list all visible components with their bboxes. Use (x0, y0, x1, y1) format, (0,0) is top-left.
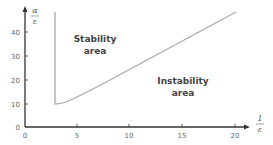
stability-area-label: Stability area (74, 34, 117, 56)
y-tick-40: 40 (11, 29, 20, 37)
x-tick-10: 10 (125, 132, 134, 140)
svg-text:ε: ε (258, 125, 262, 134)
x-tick-15: 15 (178, 132, 187, 140)
svg-text:1: 1 (257, 114, 262, 123)
instability-area-label: Instability area (157, 76, 208, 98)
y-tick-10: 10 (11, 101, 20, 109)
svg-text:α: α (32, 6, 38, 15)
y-tick-30: 30 (11, 53, 20, 61)
stability-chart: 0 10 20 30 40 0 5 10 15 20 α ε 1 ε Stabi… (0, 0, 273, 145)
y-tick-0: 0 (16, 124, 20, 132)
svg-text:ε: ε (33, 17, 37, 26)
x-tick-5: 5 (75, 132, 79, 140)
svg-text:area: area (172, 88, 195, 98)
y-axis-arrow-icon (23, 6, 28, 12)
svg-text:Stability: Stability (74, 34, 117, 44)
svg-text:Instability: Instability (157, 76, 208, 86)
x-axis-arrow-icon (244, 125, 250, 130)
stability-boundary-curve (55, 12, 236, 104)
x-tick-20: 20 (231, 132, 240, 140)
y-tick-20: 20 (11, 77, 20, 85)
x-axis-label: 1 ε (256, 114, 264, 134)
y-axis-label: α ε (31, 6, 39, 26)
svg-text:area: area (84, 46, 107, 56)
x-tick-0: 0 (23, 132, 27, 140)
